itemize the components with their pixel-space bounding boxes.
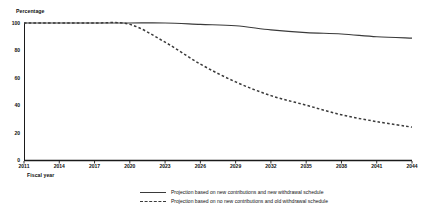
x-tick-label: 2035 <box>293 163 319 169</box>
x-tick-label: 2017 <box>82 163 108 169</box>
x-tick-label: 2041 <box>364 163 390 169</box>
x-tick-label: 2038 <box>328 163 354 169</box>
series-line-solid <box>24 23 412 38</box>
plot-area <box>0 0 425 212</box>
y-axis-title: Percentage <box>16 8 44 14</box>
axes <box>24 23 412 161</box>
legend-item-solid: Projection based on new contributions an… <box>140 188 324 196</box>
x-tick-label: 2011 <box>11 163 37 169</box>
x-tick-label: 2044 <box>399 163 425 169</box>
x-tick-label: 2029 <box>223 163 249 169</box>
data-series <box>24 23 412 128</box>
legend-swatch-dashed-line <box>140 198 166 204</box>
legend-item-dashed: Projection based on no new contributions… <box>140 197 328 205</box>
legend-label-solid: Projection based on new contributions an… <box>171 189 324 195</box>
x-tick-label: 2023 <box>152 163 178 169</box>
x-axis-title: Fiscal year <box>27 172 54 178</box>
y-tick-label: 40 <box>6 102 20 108</box>
x-tick-label: 2032 <box>258 163 284 169</box>
x-tick-label: 2014 <box>46 163 72 169</box>
x-tick-label: 2026 <box>187 163 213 169</box>
y-tick-label: 60 <box>6 75 20 81</box>
legend-swatch-solid-line <box>140 189 166 195</box>
legend-label-dashed: Projection based on no new contributions… <box>171 198 328 204</box>
y-tick-label: 20 <box>6 130 20 136</box>
x-tick-label: 2020 <box>117 163 143 169</box>
series-line-dashed <box>24 23 412 128</box>
y-tick-label: 80 <box>6 47 20 53</box>
y-tick-label: 100 <box>6 20 20 26</box>
chart-container: Percentage Fiscal year 020406080100 2011… <box>0 0 425 212</box>
